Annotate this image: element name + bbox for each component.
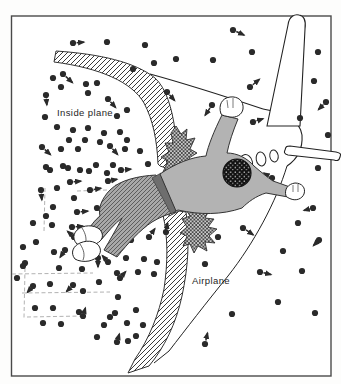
air-molecule [83,81,89,87]
air-molecule [295,220,301,226]
air-molecule [96,279,102,285]
air-molecule [202,341,208,347]
air-molecule [275,299,281,305]
air-molecule [173,56,179,62]
air-molecule [82,137,88,143]
air-molecule [146,234,152,240]
air-molecule [20,244,26,250]
air-molecule [70,40,76,46]
air-molecule [117,275,123,281]
air-molecule [135,269,141,275]
airplane-decompression-diagram: Inside plane Airplane [0,0,341,384]
air-molecule [62,247,68,253]
air-molecule [58,84,64,90]
air-molecule [56,265,62,271]
air-molecule [250,119,256,125]
velocity-arrow [125,169,131,170]
air-molecule [123,255,129,261]
air-molecule [80,288,86,294]
air-molecule [79,266,85,272]
air-molecule [94,80,100,86]
air-molecule [316,237,322,243]
air-molecule [315,165,321,171]
air-molecule [97,139,103,145]
air-molecule [42,114,48,120]
air-molecule [32,305,38,311]
velocity-arrow [81,211,88,212]
air-molecule [297,115,303,121]
air-molecule [124,107,130,113]
velocity-arrow [77,42,84,43]
physics-illustration: Inside plane Airplane [0,0,341,384]
air-molecule [93,162,99,168]
air-molecule [140,322,146,328]
velocity-arrow [46,99,47,105]
air-molecule [209,102,215,108]
air-molecule [151,271,157,277]
air-molecule [117,129,123,135]
air-molecule [122,146,128,152]
velocity-arrow [74,181,81,182]
air-molecule [151,60,157,66]
air-molecule [130,66,136,72]
air-molecule [133,333,139,339]
air-molecule [104,39,110,45]
air-molecule [71,195,77,201]
velocity-arrow [167,223,168,228]
air-molecule [101,322,107,328]
air-molecule [310,205,316,211]
air-molecule [141,256,147,262]
air-molecule [40,320,46,326]
air-molecule [154,259,160,265]
air-molecule [145,161,151,167]
air-molecule [107,143,113,149]
air-molecule [110,162,116,168]
air-molecule [104,170,110,176]
air-molecule [164,89,170,95]
air-molecule [105,96,111,102]
air-molecule [133,307,139,313]
air-molecule [112,310,118,316]
air-molecule [125,338,131,344]
air-molecule [50,204,56,210]
person-hand-trailing [285,183,304,200]
air-molecule [38,187,44,193]
air-molecule [39,144,45,150]
air-molecule [312,310,318,316]
air-molecule [247,84,253,90]
air-molecule [323,99,329,105]
air-molecule [325,132,331,138]
air-molecule [94,334,100,340]
air-molecule [30,283,36,289]
air-molecule [58,146,64,152]
velocity-arrow [41,194,42,200]
air-molecule [105,259,111,265]
air-molecule [65,165,71,171]
air-molecule [74,209,80,215]
label-inside-plane: Inside plane [57,107,113,118]
air-molecule [210,57,216,63]
air-molecule [50,305,56,311]
air-molecule [115,294,121,300]
air-molecule [240,225,246,231]
air-molecule [77,167,83,173]
velocity-arrow [112,179,117,180]
air-molecule [114,113,120,119]
air-molecule [86,168,92,174]
air-molecule [137,148,143,154]
air-molecule [14,275,20,281]
air-molecule [107,314,113,320]
air-molecule [20,263,26,269]
air-molecule [47,281,53,287]
air-molecule [215,234,221,240]
air-molecule [311,78,317,84]
air-molecule [49,222,55,228]
air-molecule [249,49,255,55]
air-molecule [69,224,75,230]
air-molecule [101,130,107,136]
air-molecule [124,320,130,326]
air-molecule [70,282,76,288]
air-molecule [60,71,66,77]
air-molecule [118,167,124,173]
air-molecule [280,248,286,254]
